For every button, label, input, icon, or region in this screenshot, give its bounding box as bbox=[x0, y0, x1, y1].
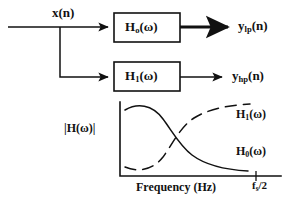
output-label-ylp: ylp(n) bbox=[238, 19, 268, 33]
branch-line-to-h1 bbox=[60, 27, 108, 77]
chart-series-label-h0: H0(ω) bbox=[236, 145, 266, 159]
chart-xtick-label-fs-over-2: fs/2 bbox=[252, 180, 267, 193]
chart-series-h0-curve bbox=[125, 106, 248, 171]
output-label-yhp: yhp(n) bbox=[232, 69, 264, 83]
input-label: x(n) bbox=[52, 6, 74, 19]
block-h0-label: Ho(ω) bbox=[125, 20, 158, 34]
chart-series-label-h1: H1(ω) bbox=[236, 108, 266, 122]
chart-ylabel: |H(ω)| bbox=[64, 122, 95, 134]
diagram-canvas: x(n) Ho(ω) H1(ω) ylp(n) yhp(n) |H(ω)| Fr… bbox=[0, 0, 295, 205]
chart-series-h1-curve bbox=[125, 104, 250, 170]
block-h1-label: H1(ω) bbox=[125, 69, 158, 83]
chart-xlabel: Frequency (Hz) bbox=[136, 181, 216, 193]
